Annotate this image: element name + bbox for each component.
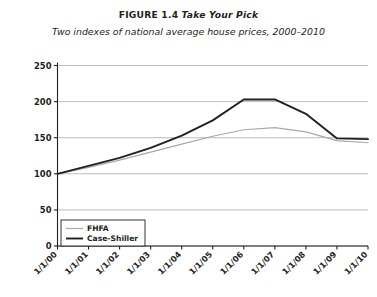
x-tick-label: 1/1/05 [187,249,215,277]
x-tick-label: 1/1/01 [63,249,91,277]
legend-label: Case-Shiller [87,234,138,243]
legend: FHFACase-Shiller [61,220,145,246]
x-tick-label: 1/1/00 [31,249,59,277]
y-tick-label: 150 [34,133,52,143]
x-tick-label: 1/1/10 [342,249,370,277]
y-tick-label: 250 [34,61,52,71]
series-line-fhfa [58,128,369,174]
y-tick-label: 50 [40,205,52,215]
x-tick-label: 1/1/08 [280,249,308,277]
figure-container: FIGURE 1.4 Take Your Pick Two indexes of… [0,0,377,297]
x-tick-label: 1/1/09 [311,249,339,277]
y-tick-label: 200 [34,97,52,107]
line-chart: 050100150200250 1/1/001/1/011/1/021/1/03… [0,0,377,297]
x-tick-label: 1/1/04 [156,249,184,277]
legend-label: FHFA [87,224,109,233]
x-tick-label: 1/1/06 [218,249,246,277]
y-axis: 050100150200250 [34,61,57,252]
gridlines [58,66,369,247]
x-axis: 1/1/001/1/011/1/021/1/031/1/041/1/051/1/… [31,246,369,277]
series-lines [58,99,369,173]
y-tick-label: 100 [34,169,52,179]
x-tick-label: 1/1/02 [94,249,121,276]
x-tick-label: 1/1/07 [249,249,277,277]
x-tick-label: 1/1/03 [125,249,153,277]
